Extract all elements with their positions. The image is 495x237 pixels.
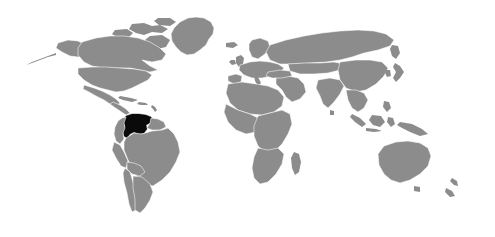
- world-locator-map: [0, 0, 495, 237]
- world-map-svg: [0, 0, 495, 237]
- tasmania-land: [414, 186, 420, 192]
